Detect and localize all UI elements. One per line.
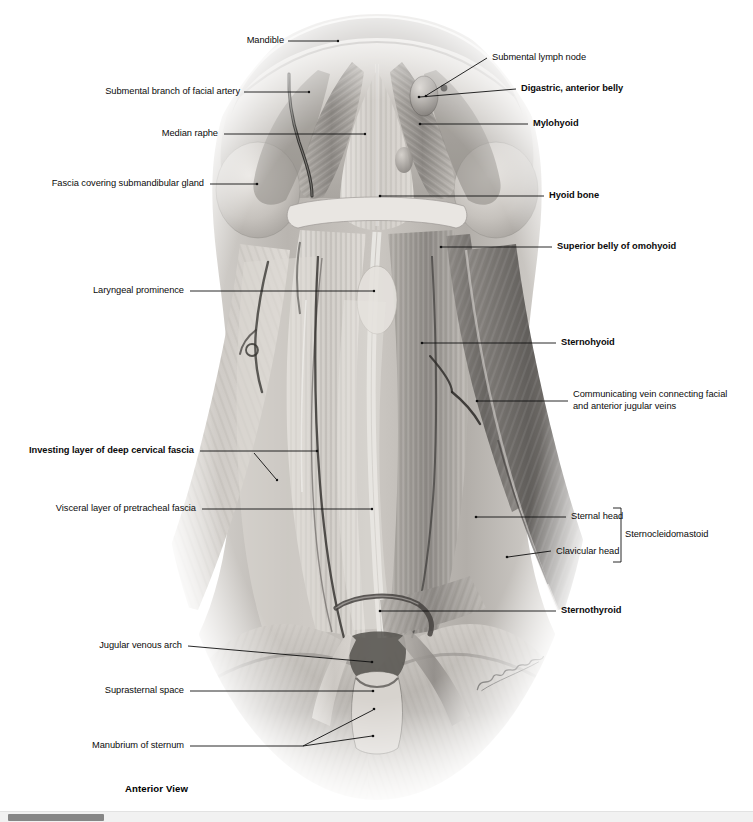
label-communicating-vein: Communicating vein connecting facial and… [573, 389, 745, 412]
submental-branch-facial-artery-vessel [289, 74, 312, 196]
vein-valve-loop [246, 344, 258, 356]
label-submental-branch-facial-artery: Submental branch of facial artery [20, 86, 240, 98]
leader-dot-suprasternal [372, 690, 375, 693]
leader-manubrium-lower [303, 736, 372, 746]
leader-dot-hyoid [379, 195, 382, 198]
scm-edge-highlight [466, 250, 558, 610]
submandibular-gland-right-outline [454, 142, 538, 238]
facial-vein-tributary [430, 356, 452, 392]
label-sternohyoid: Sternohyoid [561, 337, 615, 349]
submandibular-gland-right [454, 142, 538, 238]
sternothyroid-muscle [380, 576, 486, 636]
mandible-arch [231, 18, 523, 116]
mandible-border [240, 42, 514, 96]
pectoral-region-right [368, 624, 600, 800]
linea-alba-cervicalis [371, 232, 382, 638]
leader-dot-lymph-node [425, 95, 428, 98]
label-median-raphe: Median raphe [20, 128, 218, 140]
artery-highlight [289, 74, 312, 196]
pectoral-left-fibres [154, 624, 386, 800]
label-investing-layer-deep-cervical-fascia: Investing layer of deep cervical fascia [16, 445, 194, 457]
hyoid-bone-shape [287, 197, 467, 228]
leader-dot-omohyoid [440, 246, 443, 249]
submandibular-gland-left [216, 142, 300, 238]
vein-branch-left [240, 330, 256, 354]
digastric-left-fibres [299, 62, 364, 199]
omohyoid-fibres [446, 234, 534, 512]
clavicle-left [196, 654, 352, 690]
scm-sternal-head-insertion [398, 630, 470, 726]
vessel-stump-right [441, 85, 448, 92]
leader-dot-digastric [418, 96, 421, 99]
superior-belly-omohyoid [446, 234, 534, 512]
label-digastric-anterior-belly: Digastric, anterior belly [521, 83, 623, 95]
digastric-anterior-belly-left [299, 62, 364, 199]
horizontal-scrollbar[interactable] [0, 811, 753, 822]
laryngeal-prominence-bulge [357, 266, 397, 334]
label-clavicular-head: Clavicular head [556, 546, 619, 558]
midline-seam [371, 232, 382, 638]
label-sternocleidomastoid: Sternocleidomastoid [625, 529, 708, 541]
scm-left-fibres [152, 244, 290, 610]
scm-head-division [498, 440, 548, 584]
leader-dot-fascia-submandibular [256, 183, 259, 186]
mylohyoid-muscle [340, 70, 414, 230]
suprasternal-space-recess [349, 632, 406, 677]
label-mylohyoid: Mylohyoid [533, 118, 579, 130]
artist-signature [474, 657, 548, 692]
leader-dot-manubrium-upper [373, 708, 376, 711]
strap-left-fibres [287, 230, 367, 638]
pectoral-region-left [154, 624, 386, 800]
strap-muscle-column-right [388, 230, 468, 638]
leader-dot-submental-branch [308, 91, 310, 93]
figure-caption-anterior-view: Anterior View [125, 783, 188, 794]
leader-dot-median-raphe [364, 133, 366, 135]
digastric-sheet-right [424, 70, 501, 205]
leader-digastric [420, 89, 516, 97]
sternocleidomastoid-left-fascia [152, 244, 290, 610]
leader-dot-communicating-vein [476, 400, 479, 403]
submental-lymph-node-outline [410, 76, 438, 116]
leader-dot-clavicular-head [506, 556, 509, 559]
leader-dot-jugular-arch [371, 661, 374, 664]
label-visceral-layer-pretracheal-fascia: Visceral layer of pretracheal fascia [20, 503, 196, 515]
label-sternothyroid: Sternothyroid [561, 605, 621, 617]
laryngeal-prominence-outline [357, 266, 397, 334]
anterior-jugular-vein-left [315, 256, 344, 638]
leader-dot-mandible [337, 40, 339, 42]
leader-dot-visceral-layer [371, 508, 373, 510]
leader-dot-sternohyoid [421, 342, 424, 345]
label-mandible: Mandible [60, 35, 284, 47]
leader-dot-investing-main [316, 450, 318, 452]
neck-silhouette [154, 14, 600, 800]
submental-lymph-node-secondary [395, 147, 413, 173]
leader-submental-lymph-node [427, 58, 487, 95]
jugular-arch-highlight [336, 596, 418, 608]
investing-fascia-cut-edge [311, 258, 332, 632]
submental-lymph-node-shape [410, 76, 438, 116]
communicating-vein-vessel [452, 392, 480, 424]
investing-fascia-highlight [301, 300, 306, 492]
leader-dot-investing-branch [276, 479, 278, 481]
sternothyroid-fibres [380, 576, 486, 636]
jugular-notch [356, 678, 398, 687]
investing-layer-deep-cervical-fascia-sheet [237, 256, 330, 640]
digastric-sheet-left [253, 70, 330, 205]
manubrium-of-sternum-shape [352, 672, 403, 755]
anatomy-plate-page: Mandible Submental branch of facial arte… [0, 0, 753, 822]
specimen-body [152, 14, 604, 800]
label-sternal-head: Sternal head [571, 511, 623, 523]
scm-left-insertion [312, 632, 356, 726]
mylohyoid-fibres [340, 70, 414, 230]
leader-clavicular-head [508, 551, 551, 557]
label-suprasternal-space: Suprasternal space [20, 685, 184, 697]
pectoral-right-fibres [368, 624, 600, 800]
visceral-layer-pretracheal-fascia-sheet [337, 300, 392, 630]
hyoid-bone-outline [287, 197, 467, 228]
scrollbar-thumb[interactable] [8, 814, 104, 821]
label-hyoid-bone: Hyoid bone [549, 190, 599, 202]
leader-investing-layer-branch [254, 453, 276, 479]
label-superior-belly-of-omohyoid: Superior belly of omohyoid [557, 241, 676, 253]
digastric-anterior-belly-right [390, 62, 455, 199]
label-laryngeal-prominence: Laryngeal prominence [20, 285, 184, 297]
